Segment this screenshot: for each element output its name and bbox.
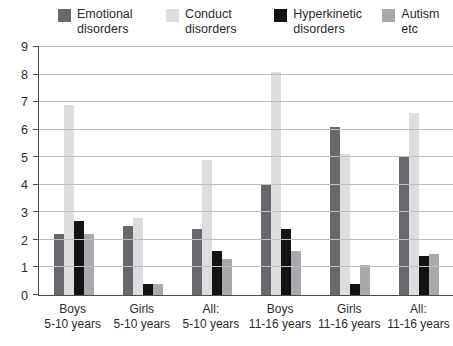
y-axis-tick (33, 211, 39, 212)
bar-autism-etc-boys-5-10-years (84, 234, 94, 295)
x-axis-label-line: 11-16 years (315, 317, 384, 332)
bar-autism-etc-all-11-16-years (429, 254, 439, 295)
gridline (39, 74, 453, 75)
y-axis-tick-label: 9 (0, 39, 28, 55)
y-axis-tick-label: 6 (0, 122, 28, 138)
x-axis-label-boys-11-16-years: Boys11-16 years (246, 302, 315, 332)
bar-hyperkinetic-disorders-girls-5-10-years (143, 284, 153, 295)
y-axis-tick-label: 5 (0, 150, 28, 166)
y-axis-tick (33, 266, 39, 267)
y-axis-tick (33, 239, 39, 240)
legend-swatch-icon (58, 9, 71, 22)
gridline (39, 211, 453, 212)
bar-hyperkinetic-disorders-boys-5-10-years (74, 221, 84, 295)
bar-autism-etc-girls-11-16-years (360, 265, 370, 295)
bar-conduct-disorders-girls-5-10-years (133, 218, 143, 295)
y-axis-tick (33, 156, 39, 157)
x-axis-label-girls-11-16-years: Girls11-16 years (315, 302, 384, 332)
legend-label: Autism etc (401, 7, 453, 36)
y-axis-tick-label: 2 (0, 233, 28, 249)
legend-item-emotional-disorders: Emotional disorders (58, 7, 152, 36)
legend-label: Emotional disorders (77, 7, 152, 36)
bar-group-boys-11-16-years (246, 47, 315, 295)
y-axis-tick (33, 46, 39, 47)
legend-item-autism-etc: Autism etc (382, 7, 453, 36)
bar-hyperkinetic-disorders-girls-11-16-years (350, 284, 360, 295)
legend-swatch-icon (382, 9, 395, 22)
bar-group-all-5-10-years (177, 47, 246, 295)
bar-emotional-disorders-boys-11-16-years (261, 185, 271, 295)
y-axis-tick-label: 7 (0, 94, 28, 110)
gridline (39, 156, 453, 157)
x-axis-label-line: Boys (246, 302, 315, 317)
x-axis-label-all-5-10-years: All:5-10 years (176, 302, 245, 332)
bar-group-all-11-16-years (384, 47, 453, 295)
bar-conduct-disorders-all-5-10-years (202, 160, 212, 295)
plot-area (38, 47, 453, 296)
y-axis-tick-label: 0 (0, 288, 28, 304)
x-axis-label-line: 5-10 years (107, 317, 176, 332)
y-axis-tick (33, 129, 39, 130)
x-axis-label-line: Girls (315, 302, 384, 317)
y-axis-tick-label: 1 (0, 260, 28, 276)
y-axis-tick (33, 74, 39, 75)
bar-emotional-disorders-all-11-16-years (399, 157, 409, 295)
y-axis-tick-label: 3 (0, 205, 28, 221)
gridline (39, 129, 453, 130)
gridline (39, 266, 453, 267)
prevalence-bar-chart: Emotional disordersConduct disordersHype… (0, 0, 453, 346)
gridline (39, 184, 453, 185)
bar-group-girls-5-10-years (108, 47, 177, 295)
y-axis-tick (33, 184, 39, 185)
bar-conduct-disorders-all-11-16-years (409, 113, 419, 295)
x-axis-label-all-11-16-years: All:11-16 years (384, 302, 453, 332)
y-axis-tick (33, 294, 39, 295)
bar-group-boys-5-10-years (39, 47, 108, 295)
x-axis-label-line: All: (384, 302, 453, 317)
x-axis: Boys5-10 yearsGirls5-10 yearsAll:5-10 ye… (38, 302, 453, 332)
x-axis-label-girls-5-10-years: Girls5-10 years (107, 302, 176, 332)
x-axis-label-line: Boys (38, 302, 107, 317)
y-axis-tick (33, 101, 39, 102)
y-axis: 0123456789 (0, 47, 31, 296)
x-axis-label-line: All: (176, 302, 245, 317)
x-axis-label-line: 11-16 years (246, 317, 315, 332)
bar-group-girls-11-16-years (315, 47, 384, 295)
x-axis-label-boys-5-10-years: Boys5-10 years (38, 302, 107, 332)
bar-autism-etc-all-5-10-years (222, 259, 232, 295)
legend-label: Hyperkinetic disorders (293, 7, 368, 36)
legend-swatch-icon (166, 9, 179, 22)
x-axis-label-line: Girls (107, 302, 176, 317)
chart-legend: Emotional disordersConduct disordersHype… (58, 7, 453, 36)
bar-conduct-disorders-girls-11-16-years (340, 154, 350, 295)
gridline (39, 239, 453, 240)
bar-emotional-disorders-boys-5-10-years (54, 234, 64, 295)
gridline (39, 101, 453, 102)
y-axis-tick-label: 4 (0, 177, 28, 193)
bar-hyperkinetic-disorders-all-11-16-years (419, 256, 429, 295)
y-axis-tick-label: 8 (0, 67, 28, 83)
bar-groups (39, 47, 453, 295)
bar-autism-etc-boys-11-16-years (291, 251, 301, 295)
bar-hyperkinetic-disorders-all-5-10-years (212, 251, 222, 295)
legend-swatch-icon (274, 9, 287, 22)
x-axis-label-line: 11-16 years (384, 317, 453, 332)
bar-autism-etc-girls-5-10-years (153, 284, 163, 295)
x-axis-label-line: 5-10 years (176, 317, 245, 332)
x-axis-label-line: 5-10 years (38, 317, 107, 332)
legend-item-conduct-disorders: Conduct disorders (166, 7, 260, 36)
gridline (39, 46, 453, 47)
bar-emotional-disorders-girls-5-10-years (123, 226, 133, 295)
legend-label: Conduct disorders (185, 7, 260, 36)
legend-item-hyperkinetic-disorders: Hyperkinetic disorders (274, 7, 368, 36)
